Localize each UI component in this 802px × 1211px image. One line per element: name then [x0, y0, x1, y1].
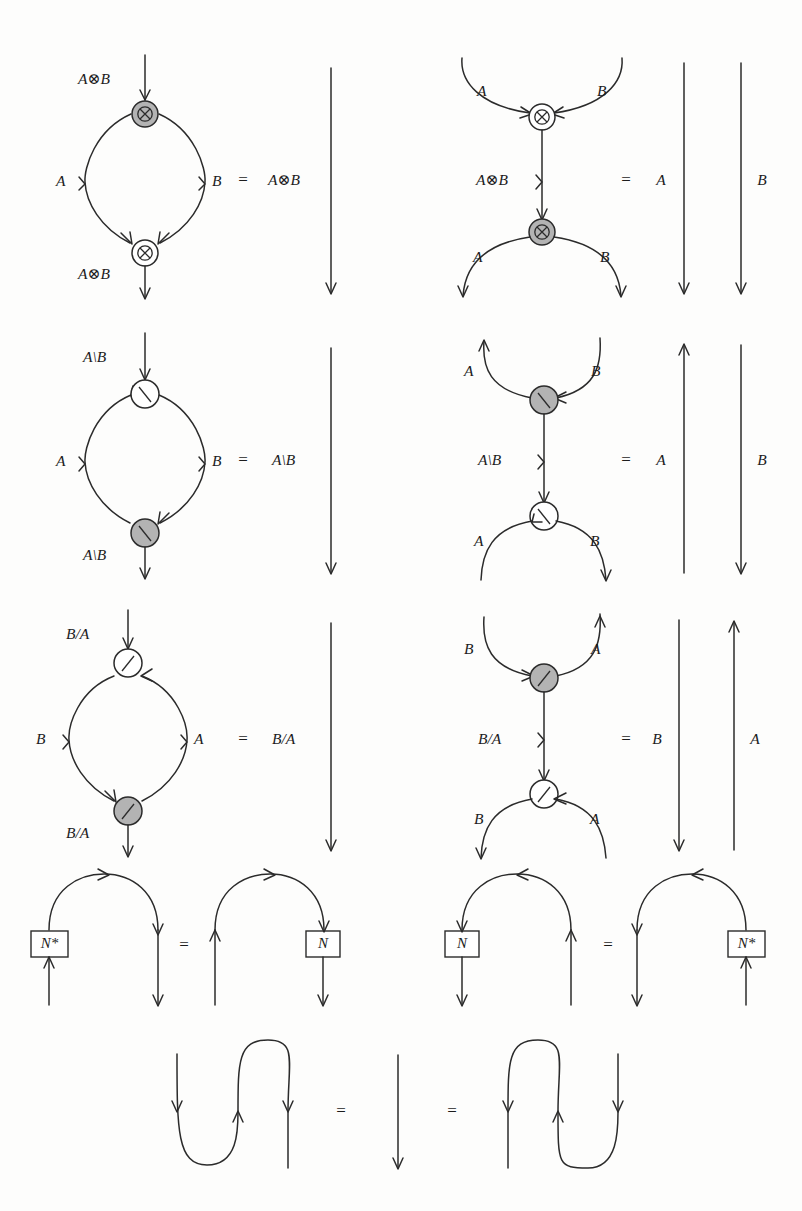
slash-identity-wire[interactable]: B/A: [272, 623, 336, 851]
tensor-loop-left-arc: [85, 114, 131, 243]
bs-loop-right-arc: [159, 395, 205, 523]
dual-cap-left-rhs[interactable]: N: [210, 869, 340, 1006]
bs-result-label: A\B: [271, 451, 296, 468]
bs-co-lower-left-label: A: [473, 532, 484, 549]
dual-cap-right-lhs[interactable]: N: [445, 869, 576, 1006]
dual-box-label: N: [456, 935, 468, 951]
equals-sign-row2-left: =: [238, 450, 248, 469]
result-label-A: A: [655, 171, 666, 188]
snake-right-shape[interactable]: [503, 1040, 623, 1168]
tensor-identity-wire[interactable]: A⊗B: [267, 68, 336, 294]
sl-result-label: B/A: [272, 730, 296, 747]
sl-loop-right-arc: [142, 676, 187, 801]
backslash-loop-diagram[interactable]: A\B A B A\B: [55, 333, 222, 579]
arrowhead-into-bottom-left: [121, 232, 132, 244]
tensor-result-label: A⊗B: [267, 171, 300, 188]
tensor-co-lower-right-label: B: [600, 248, 610, 265]
arrowhead-into-bottom-right: [158, 512, 169, 524]
bs-loop-left-arc: [85, 395, 131, 523]
bs-loop-left-label: A: [55, 452, 66, 469]
tensor-co-upper-right-label: B: [597, 82, 607, 99]
tensor-co-lower-left-arc: [463, 237, 530, 296]
sl-co-upper-left-label: B: [464, 640, 474, 657]
backslash-two-wires[interactable]: A B: [655, 344, 767, 574]
arrowhead-middle-tick: [538, 733, 544, 747]
result-label-B: B: [757, 171, 767, 188]
arrowhead-into-bottom-right: [158, 232, 169, 244]
snake-left-path: [177, 1040, 290, 1168]
equals-sign-row5-right: =: [447, 1101, 457, 1120]
equals-sign-row4-left: =: [179, 935, 189, 954]
cap-arc: [215, 874, 324, 930]
bs-co-lower-left-arc: [481, 521, 532, 580]
string-diagram-canvas: A⊗B A B A⊗B = A⊗B: [0, 0, 802, 1211]
bs-co-lower-right-label: B: [590, 532, 600, 549]
tensor-cocomposition-diagram[interactable]: A B A⊗B A B: [458, 58, 626, 297]
slash-cocomposition-diagram[interactable]: B A B/A B A: [464, 614, 606, 859]
arrowhead-middle-tick: [536, 175, 542, 189]
right-residual-row: B/A B A B/A = B/A: [36, 610, 760, 859]
slash-two-wires[interactable]: B A: [652, 620, 760, 851]
bs-loop-right-label: B: [212, 452, 222, 469]
slash-loop-diagram[interactable]: B/A B A B/A: [36, 610, 204, 857]
bs-loop-top-label: A\B: [82, 348, 107, 365]
arrowhead-left-mid: [79, 177, 85, 190]
sl-co-lower-right-label: A: [589, 810, 600, 827]
sl-loop-top-label: B/A: [66, 625, 90, 642]
tensor-two-wires[interactable]: A B: [655, 63, 767, 294]
backslash-cocomposition-diagram[interactable]: A B A\B A B: [463, 338, 611, 581]
sl-loop-bottom-label: B/A: [66, 824, 90, 841]
cap-arc: [49, 874, 158, 930]
tensor-loop-right-arc: [159, 114, 205, 243]
snake-left-shape[interactable]: [172, 1040, 293, 1168]
dual-box-label: N: [317, 935, 329, 951]
tensor-loop-top-label: A⊗B: [77, 70, 110, 87]
equals-sign-row2-right: =: [621, 450, 631, 469]
equals-sign-row5-left: =: [336, 1101, 346, 1120]
tensor-loop-diagram[interactable]: A⊗B A B A⊗B: [55, 55, 222, 299]
sl-co-upper-left-arc: [484, 617, 532, 676]
tensor-co-upper-right-arc: [554, 58, 622, 113]
dual-cap-right-rhs[interactable]: N*: [632, 869, 765, 1006]
sl-co-lower-right-arc: [556, 799, 606, 858]
sl-co-upper-right-label: A: [590, 640, 601, 657]
tensor-co-upper-left-arc: [462, 58, 530, 113]
dual-cap-left-lhs[interactable]: N*: [31, 869, 163, 1006]
bs-co-upper-left-arc: [484, 341, 532, 398]
equals-sign-row1-right: =: [621, 170, 631, 189]
equals-sign-row3-left: =: [238, 729, 248, 748]
equals-sign-row4-right: =: [603, 935, 613, 954]
snake-identity-wire[interactable]: [393, 1055, 403, 1169]
dual-box-label: N*: [737, 935, 756, 951]
snake-right-path: [508, 1040, 618, 1168]
sl-co-middle-label: B/A: [478, 730, 502, 747]
tensor-row: A⊗B A B A⊗B = A⊗B: [55, 55, 767, 299]
tensor-co-middle-label: A⊗B: [475, 171, 508, 188]
tensor-loop-left-label: A: [55, 172, 66, 189]
arrowhead-middle-tick: [538, 455, 544, 469]
tensor-co-lower-right-arc: [554, 237, 621, 296]
result-label-A: A: [655, 451, 666, 468]
sl-loop-left-label: B: [36, 730, 46, 747]
result-label-A: A: [749, 730, 760, 747]
equals-sign-row1-left: =: [238, 170, 248, 189]
equals-sign-row3-right: =: [621, 729, 631, 748]
tensor-co-upper-left-label: A: [476, 82, 487, 99]
sl-co-lower-left-label: B: [474, 810, 484, 827]
figure-root: A⊗B A B A⊗B = A⊗B: [0, 0, 802, 1211]
result-label-B: B: [757, 451, 767, 468]
tensor-co-lower-left-label: A: [472, 248, 483, 265]
dual-object-row: N* = N: [31, 869, 765, 1006]
snake-equation-row: = =: [172, 1040, 623, 1169]
dual-box-label: N*: [40, 935, 59, 951]
cap-arc: [462, 874, 571, 930]
sl-loop-right-label: A: [193, 730, 204, 747]
cap-arc: [637, 874, 746, 930]
bs-co-middle-label: A\B: [477, 451, 502, 468]
backslash-identity-wire[interactable]: A\B: [271, 348, 336, 574]
bs-co-upper-right-label: B: [591, 362, 601, 379]
left-residual-row: A\B A B A\B = A\B: [55, 333, 767, 581]
arrowhead-into-bottom-left: [105, 790, 116, 802]
sl-co-lower-left-arc: [481, 799, 532, 858]
result-label-B: B: [652, 730, 662, 747]
